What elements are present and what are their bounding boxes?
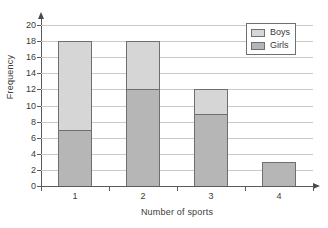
y-axis-title: Frequency <box>5 41 15 113</box>
x-axis-tick-label: 4 <box>276 191 281 201</box>
y-axis-tick-mark <box>37 57 41 58</box>
x-axis-title: Number of sports <box>41 207 313 217</box>
bar-segment-boys[interactable] <box>126 41 160 90</box>
x-axis-tick-mark <box>109 186 110 191</box>
legend-label: Girls <box>270 41 289 50</box>
legend-swatch-icon <box>251 29 265 37</box>
y-axis-tick-label: 20 <box>26 20 36 30</box>
y-axis-tick-mark <box>37 73 41 74</box>
bar-segment-boys[interactable] <box>58 41 92 131</box>
bar-segment-boys[interactable] <box>194 89 228 114</box>
x-axis-tick-label: 3 <box>208 191 213 201</box>
x-axis-tick-mark <box>41 186 42 191</box>
bar-chart: Frequency 02468101214161820 1234 Number … <box>0 0 328 228</box>
y-axis-tick-label: 4 <box>31 149 36 159</box>
y-axis-tick-label: 10 <box>26 101 36 111</box>
bar-group[interactable] <box>194 25 228 186</box>
legend-label: Boys <box>270 28 290 37</box>
legend: BoysGirls <box>246 23 296 55</box>
y-axis-tick-mark <box>37 122 41 123</box>
x-axis-tick-mark <box>313 186 314 191</box>
y-axis-tick-mark <box>37 89 41 90</box>
y-axis-tick-label: 8 <box>31 117 36 127</box>
bar-segment-girls[interactable] <box>126 89 160 187</box>
y-axis-arrow-icon <box>38 12 44 19</box>
y-axis-tick-mark <box>37 25 41 26</box>
x-axis-tick-mark <box>245 186 246 191</box>
legend-item-girls[interactable]: Girls <box>251 40 290 51</box>
y-axis-tick-mark <box>37 170 41 171</box>
y-axis-tick-label: 18 <box>26 36 36 46</box>
y-axis-tick-label: 2 <box>31 165 36 175</box>
bar-segment-girls[interactable] <box>262 162 296 187</box>
y-axis-tick-label: 0 <box>31 181 36 191</box>
y-axis-tick-label: 14 <box>26 68 36 78</box>
y-axis-tick-mark <box>37 41 41 42</box>
y-axis-tick-label: 12 <box>26 84 36 94</box>
bar-group[interactable] <box>58 25 92 186</box>
y-axis-tick-mark <box>37 154 41 155</box>
y-axis-tick-label: 6 <box>31 133 36 143</box>
y-axis-tick-mark <box>37 106 41 107</box>
x-axis-tick-label: 2 <box>140 191 145 201</box>
x-axis-tick-label: 1 <box>72 191 77 201</box>
x-axis-arrow-icon <box>313 183 320 189</box>
y-axis-tick-label: 16 <box>26 52 36 62</box>
bar-group[interactable] <box>126 25 160 186</box>
bar-segment-girls[interactable] <box>194 114 228 187</box>
legend-swatch-icon <box>251 42 265 50</box>
legend-item-boys[interactable]: Boys <box>251 27 290 38</box>
bar-segment-girls[interactable] <box>58 130 92 187</box>
x-axis-tick-mark <box>177 186 178 191</box>
y-axis-tick-mark <box>37 138 41 139</box>
